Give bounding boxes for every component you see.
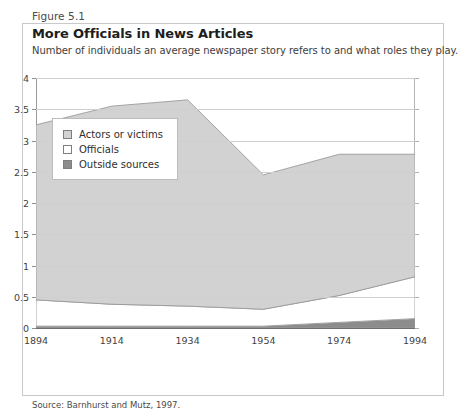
legend-entry: Officials [63, 142, 163, 156]
y-axis-label: 3.5 [14, 104, 29, 115]
y-axis-tick [32, 266, 36, 267]
y-axis-label: 3 [23, 135, 29, 146]
y-axis-tick [32, 78, 36, 79]
y-axis-tick-right [415, 328, 419, 329]
y-axis-label: 1.5 [14, 229, 29, 240]
x-axis-label: 1994 [403, 335, 427, 346]
chart-plot-area: 00.511.522.533.5418941914193419541974199… [36, 78, 415, 328]
legend-label: Officials [79, 144, 119, 155]
y-axis-tick-right [415, 297, 419, 298]
x-axis-label: 1954 [251, 335, 275, 346]
y-axis-tick-right [415, 141, 419, 142]
x-axis-label: 1914 [100, 335, 124, 346]
y-axis-label: 0 [23, 323, 29, 334]
y-axis-label: 2.5 [14, 166, 29, 177]
source-note: Source: Barnhurst and Mutz, 1997. [32, 400, 180, 410]
y-axis-tick-right [415, 172, 419, 173]
y-axis-tick-right [415, 203, 419, 204]
grid-line [36, 297, 415, 298]
legend-entry: Outside sources [63, 157, 163, 171]
y-axis-tick-right [415, 78, 419, 79]
legend-swatch-icon [63, 145, 72, 154]
y-axis-tick [32, 109, 36, 110]
y-axis-tick-right [415, 266, 419, 267]
legend-swatch-icon [63, 160, 72, 169]
figure-number: Figure 5.1 [32, 10, 85, 22]
x-axis-label: 1934 [176, 335, 200, 346]
y-axis-label: 2 [23, 198, 29, 209]
grid-line [36, 266, 415, 267]
figure-subtitle: Number of individuals an average newspap… [32, 45, 458, 56]
y-axis-label: 4 [23, 73, 29, 84]
grid-line [36, 203, 415, 204]
y-axis-tick-right [415, 109, 419, 110]
y-axis-label: 0.5 [14, 291, 29, 302]
page-title: More Officials in News Articles [32, 26, 253, 41]
y-axis-label: 1 [23, 260, 29, 271]
y-axis-tick-right [415, 234, 419, 235]
y-axis-tick [32, 234, 36, 235]
x-axis-label: 1974 [327, 335, 351, 346]
y-axis-tick [32, 203, 36, 204]
x-axis-label: 1894 [24, 335, 48, 346]
y-axis-tick [32, 141, 36, 142]
y-axis-tick [32, 328, 36, 329]
legend-swatch-icon [63, 130, 72, 139]
y-axis-tick [32, 172, 36, 173]
y-axis-tick [32, 297, 36, 298]
grid-line [36, 78, 415, 79]
legend-label: Outside sources [79, 159, 159, 170]
chart-legend: Actors or victimsOfficialsOutside source… [52, 118, 178, 180]
legend-entry: Actors or victims [63, 127, 163, 141]
grid-line [36, 234, 415, 235]
x-axis-line [36, 328, 415, 329]
grid-line [36, 109, 415, 110]
legend-label: Actors or victims [79, 129, 163, 140]
